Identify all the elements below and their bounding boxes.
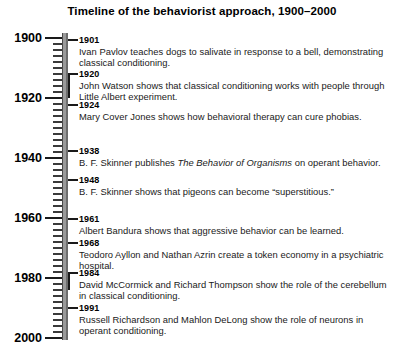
event-description: David McCormick and Richard Thompson sho… xyxy=(79,279,395,302)
axis-minor-tick xyxy=(53,43,62,45)
axis-minor-tick xyxy=(53,115,62,117)
event-connector-line xyxy=(68,104,78,106)
axis-decade-label: 1920 xyxy=(0,92,42,104)
axis-minor-tick xyxy=(53,265,62,267)
axis-minor-tick xyxy=(53,325,62,327)
axis-minor-tick xyxy=(53,73,62,75)
axis-minor-tick xyxy=(53,271,62,273)
event-connector-line xyxy=(68,218,78,220)
axis-major-tick xyxy=(45,217,62,219)
event-year-label: 1938 xyxy=(79,147,99,156)
axis-major-tick xyxy=(45,277,62,279)
axis-major-tick xyxy=(45,37,62,39)
axis-minor-tick xyxy=(53,331,62,333)
event-connector-elbow xyxy=(68,273,70,290)
event-connector-line xyxy=(68,179,78,181)
axis-minor-tick xyxy=(53,79,62,81)
axis-minor-tick xyxy=(53,133,62,135)
axis-minor-tick xyxy=(53,85,62,87)
axis-decade-label: 1900 xyxy=(0,32,42,44)
axis-minor-tick xyxy=(53,145,62,147)
axis-minor-tick xyxy=(53,187,62,189)
axis-minor-tick xyxy=(53,67,62,69)
axis-minor-tick xyxy=(53,289,62,291)
axis-major-tick xyxy=(45,337,62,339)
axis-minor-tick xyxy=(53,301,62,303)
event-description: Russell Richardson and Mahlon DeLong sho… xyxy=(79,314,395,337)
axis-minor-tick xyxy=(53,169,62,171)
event-year-label: 1924 xyxy=(79,101,99,110)
event-year-label: 1984 xyxy=(79,269,99,278)
event-year-label: 1968 xyxy=(79,239,99,248)
axis-minor-tick xyxy=(53,307,62,309)
axis-minor-tick xyxy=(53,253,62,255)
event-connector-line xyxy=(68,307,78,309)
event-connector-line xyxy=(68,150,78,152)
event-year-label: 1920 xyxy=(79,70,99,79)
axis-minor-tick xyxy=(53,223,62,225)
axis-minor-tick xyxy=(53,181,62,183)
event-connector-line xyxy=(68,39,78,41)
axis-major-tick xyxy=(45,97,62,99)
axis-minor-tick xyxy=(53,247,62,249)
event-description: Ivan Pavlov teaches dogs to salivate in … xyxy=(79,46,395,69)
axis-minor-tick xyxy=(53,235,62,237)
axis-minor-tick xyxy=(53,259,62,261)
axis-major-tick xyxy=(45,157,62,159)
axis-minor-tick xyxy=(53,151,62,153)
event-connector-elbow xyxy=(68,74,70,98)
axis-decade-label: 2000 xyxy=(0,332,42,344)
event-description: Teodoro Ayllon and Nathan Azrin create a… xyxy=(79,249,395,272)
axis-minor-tick xyxy=(53,163,62,165)
axis-minor-tick xyxy=(53,241,62,243)
axis-minor-tick xyxy=(53,319,62,321)
event-description: B. F. Skinner publishes The Behavior of … xyxy=(79,157,395,168)
axis-minor-tick xyxy=(53,103,62,105)
axis-minor-tick xyxy=(53,139,62,141)
axis-decade-label: 1940 xyxy=(0,152,42,164)
event-connector-line xyxy=(68,73,78,75)
axis-minor-tick xyxy=(53,295,62,297)
event-description: B. F. Skinner shows that pigeons can bec… xyxy=(79,186,395,197)
axis-minor-tick xyxy=(53,313,62,315)
axis-minor-tick xyxy=(53,193,62,195)
event-year-label: 1991 xyxy=(79,304,99,313)
event-description: Mary Cover Jones shows how behavioral th… xyxy=(79,111,395,122)
axis-minor-tick xyxy=(53,61,62,63)
event-connector-line xyxy=(68,272,78,274)
axis-minor-tick xyxy=(53,121,62,123)
event-year-label: 1961 xyxy=(79,215,99,224)
axis-minor-tick xyxy=(53,55,62,57)
axis-minor-tick xyxy=(53,199,62,201)
axis-minor-tick xyxy=(53,175,62,177)
event-year-label: 1948 xyxy=(79,176,99,185)
axis-minor-tick xyxy=(53,205,62,207)
axis-minor-tick xyxy=(53,211,62,213)
axis-decade-label: 1960 xyxy=(0,212,42,224)
event-description: Albert Bandura shows that aggressive beh… xyxy=(79,225,395,236)
event-description: John Watson shows that classical conditi… xyxy=(79,80,395,103)
axis-minor-tick xyxy=(53,127,62,129)
axis-decade-label: 1980 xyxy=(0,272,42,284)
axis-minor-tick xyxy=(53,283,62,285)
timeline-plot: 190019201940196019802000 1901Ivan Pavlov… xyxy=(0,0,404,357)
axis-minor-tick xyxy=(53,49,62,51)
axis-minor-tick xyxy=(53,91,62,93)
axis-minor-tick xyxy=(53,229,62,231)
axis-minor-tick xyxy=(53,109,62,111)
event-year-label: 1901 xyxy=(79,36,99,45)
event-connector-line xyxy=(68,242,78,244)
